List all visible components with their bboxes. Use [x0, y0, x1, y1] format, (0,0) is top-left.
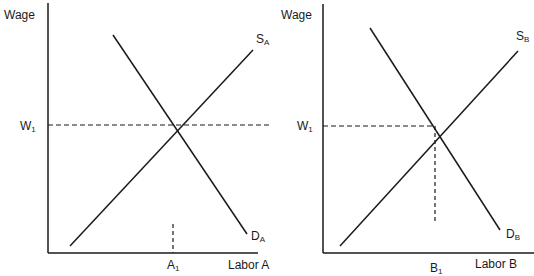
quantity-b1-label: B1 [430, 262, 442, 276]
demand-a-label: DA [251, 230, 265, 246]
quantity-label-subscript: 1 [175, 264, 179, 273]
supply-curve-a [70, 50, 253, 246]
supply-label-subscript: A [264, 38, 269, 47]
supply-label-subscript: B [524, 35, 529, 44]
panel-b-wage-w1-label: W1 [297, 120, 313, 136]
panel-a-y-axis-label: Wage [4, 9, 35, 21]
wage-label-text: W [20, 119, 31, 133]
quantity-label-subscript: 1 [438, 267, 442, 276]
supply-a-label: SA [256, 33, 269, 49]
demand-label-subscript: B [515, 233, 520, 242]
wage-label-text: W [297, 119, 308, 133]
quantity-a1-label: A1 [167, 259, 179, 275]
panel-a-wage-w1-label: W1 [20, 120, 36, 136]
panel-b-x-axis-label: Labor B [475, 258, 517, 270]
demand-label-text: D [251, 229, 260, 243]
demand-label-text: D [506, 227, 515, 241]
quantity-label-text: A [167, 258, 175, 272]
panel-b-y-axis-label: Wage [281, 9, 312, 21]
supply-label-text: S [256, 32, 264, 46]
demand-curve-a [113, 35, 247, 234]
supply-b-label: SB [516, 30, 529, 46]
supply-label-text: S [516, 29, 524, 43]
quantity-label-text: B [430, 261, 438, 275]
demand-b-label: DB [506, 228, 520, 244]
demand-label-subscript: A [260, 235, 265, 244]
wage-label-subscript: 1 [31, 125, 35, 134]
panel-a-x-axis-label: Labor A [228, 259, 269, 271]
wage-label-subscript: 1 [308, 125, 312, 134]
